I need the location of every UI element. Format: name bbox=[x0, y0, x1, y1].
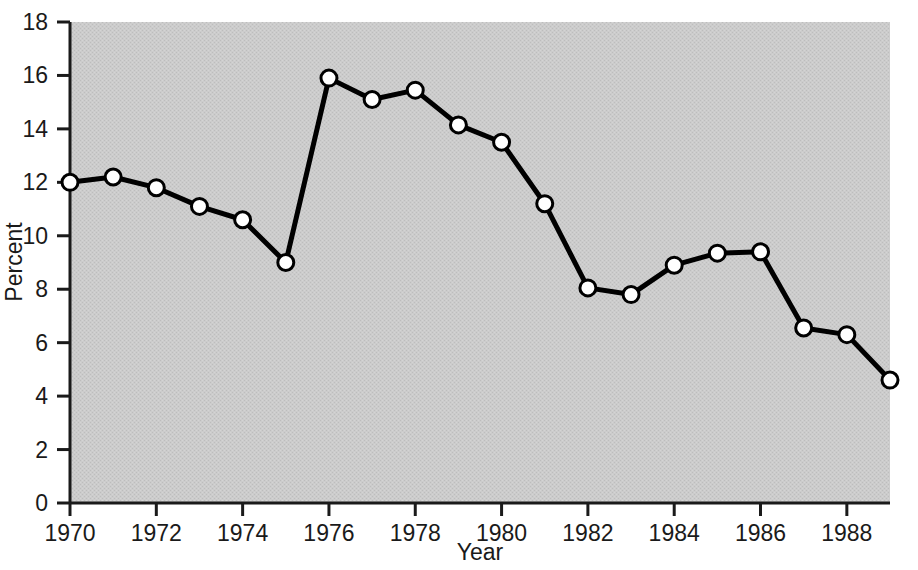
y-axis-title: Percent bbox=[1, 222, 27, 302]
data-point-marker bbox=[580, 280, 596, 296]
y-tick-label: 2 bbox=[35, 437, 48, 463]
data-point-marker bbox=[882, 372, 898, 388]
data-point-marker bbox=[623, 287, 639, 303]
data-point-marker bbox=[321, 70, 337, 86]
data-point-marker bbox=[105, 169, 121, 185]
data-point-marker bbox=[709, 245, 725, 261]
y-tick-label: 14 bbox=[22, 116, 48, 142]
x-tick-label: 1988 bbox=[821, 520, 872, 546]
y-tick-label: 0 bbox=[35, 490, 48, 516]
x-tick-label: 1976 bbox=[303, 520, 354, 546]
data-point-marker bbox=[235, 212, 251, 228]
data-point-marker bbox=[278, 255, 294, 271]
data-point-marker bbox=[753, 244, 769, 260]
data-point-marker bbox=[494, 134, 510, 150]
y-tick-label: 12 bbox=[22, 169, 48, 195]
data-point-marker bbox=[666, 257, 682, 273]
data-point-marker bbox=[191, 198, 207, 214]
chart-canvas: 024681012141618 197019721974197619781980… bbox=[0, 0, 918, 570]
data-point-marker bbox=[796, 320, 812, 336]
y-axis-ticks bbox=[57, 22, 70, 503]
y-tick-label: 16 bbox=[22, 62, 48, 88]
y-tick-label: 8 bbox=[35, 276, 48, 302]
line-chart: 024681012141618 197019721974197619781980… bbox=[0, 0, 918, 570]
data-point-marker bbox=[62, 174, 78, 190]
x-axis-title: Year bbox=[457, 539, 504, 565]
data-point-marker bbox=[839, 327, 855, 343]
data-point-marker bbox=[364, 91, 380, 107]
data-point-marker bbox=[450, 117, 466, 133]
x-tick-label: 1970 bbox=[44, 520, 95, 546]
y-tick-label: 18 bbox=[22, 9, 48, 35]
y-tick-label: 4 bbox=[35, 383, 48, 409]
y-tick-label: 6 bbox=[35, 330, 48, 356]
data-point-marker bbox=[407, 82, 423, 98]
data-point-marker bbox=[148, 180, 164, 196]
data-point-marker bbox=[537, 196, 553, 212]
x-tick-label: 1984 bbox=[649, 520, 700, 546]
x-tick-label: 1978 bbox=[390, 520, 441, 546]
x-tick-label: 1974 bbox=[217, 520, 268, 546]
x-axis-ticks bbox=[70, 503, 847, 516]
x-tick-label: 1972 bbox=[131, 520, 182, 546]
x-tick-label: 1986 bbox=[735, 520, 786, 546]
x-tick-label: 1982 bbox=[562, 520, 613, 546]
